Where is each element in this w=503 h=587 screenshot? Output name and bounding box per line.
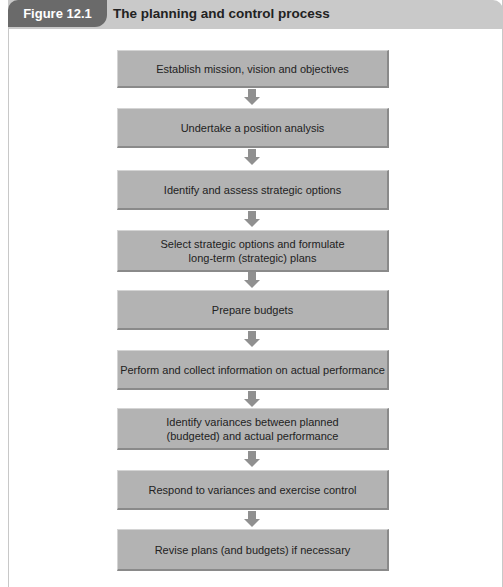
- step-box-1: Establish mission, vision and objectives: [117, 50, 389, 88]
- step-box-4: Select strategic options and formulate l…: [117, 230, 389, 272]
- arrow-down-icon: [244, 89, 260, 106]
- step-text: Undertake a position analysis: [181, 121, 325, 135]
- step-text: Perform and collect information on actua…: [120, 363, 385, 377]
- step-box-9: Revise plans (and budgets) if necessary: [117, 529, 389, 571]
- arrow-down-icon: [244, 451, 260, 468]
- figure-title: The planning and control process: [113, 6, 330, 21]
- step-text: Select strategic options and formulate l…: [158, 237, 347, 265]
- step-box-7: Identify variances between planned (budg…: [117, 408, 389, 450]
- step-text: Respond to variances and exercise contro…: [149, 483, 357, 497]
- step-text: Identify and assess strategic options: [164, 183, 341, 197]
- step-text: Establish mission, vision and objectives: [156, 62, 349, 76]
- step-text: Prepare budgets: [212, 303, 293, 317]
- step-box-5: Prepare budgets: [117, 290, 389, 330]
- arrow-down-icon: [244, 331, 260, 348]
- arrow-down-icon: [244, 511, 260, 528]
- step-text: Identify variances between planned (budg…: [158, 415, 347, 443]
- figure-label: Figure 12.1: [8, 0, 107, 27]
- step-box-2: Undertake a position analysis: [117, 108, 389, 148]
- arrow-down-icon: [244, 211, 260, 228]
- arrow-down-icon: [244, 272, 260, 289]
- arrow-down-icon: [244, 391, 260, 408]
- arrow-down-icon: [244, 149, 260, 166]
- step-box-6: Perform and collect information on actua…: [117, 350, 389, 390]
- step-box-3: Identify and assess strategic options: [117, 170, 389, 210]
- step-text: Revise plans (and budgets) if necessary: [155, 543, 351, 557]
- step-box-8: Respond to variances and exercise contro…: [117, 470, 389, 510]
